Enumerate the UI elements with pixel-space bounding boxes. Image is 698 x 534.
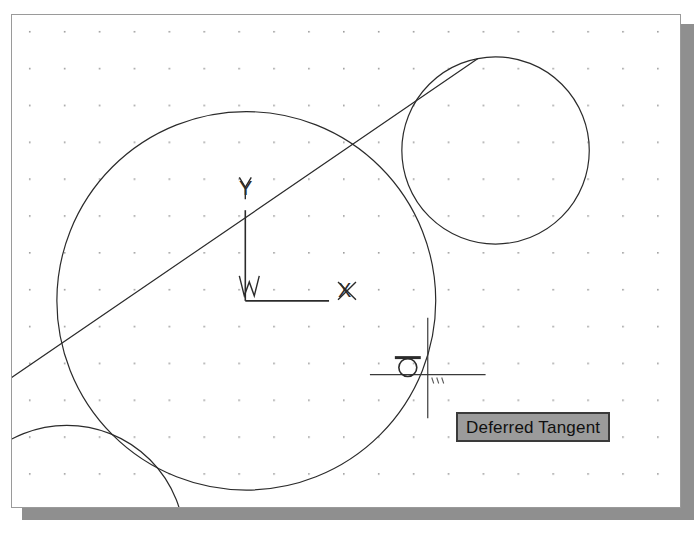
osnap-tooltip: Deferred Tangent xyxy=(456,412,610,442)
drawing-area[interactable]: Y X Deferred Tangent xyxy=(11,14,681,508)
ucs-y-axis-label: Y xyxy=(239,178,252,198)
cad-screenshot-root: Y X Deferred Tangent xyxy=(0,0,698,534)
ucs-x-axis-label: X xyxy=(338,280,351,300)
